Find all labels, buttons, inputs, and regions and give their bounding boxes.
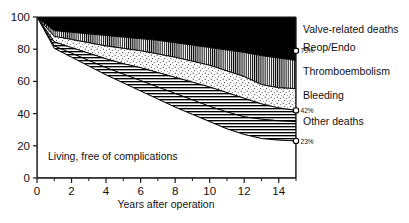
legend-label-reop-endo: Reop/Endo bbox=[303, 41, 356, 53]
x-tick-label: 8 bbox=[172, 185, 178, 197]
y-tick-label: 20 bbox=[17, 140, 30, 152]
x-tick-label: 10 bbox=[203, 185, 216, 197]
endpoint-marker-23pct bbox=[293, 138, 298, 143]
y-tick-label: 0 bbox=[24, 172, 30, 184]
y-tick-label: 40 bbox=[17, 108, 30, 120]
x-tick-label: 12 bbox=[238, 185, 251, 197]
endpoint-marker-42pct bbox=[293, 108, 298, 113]
legend-label-bleeding: Bleeding bbox=[303, 89, 344, 101]
x-tick-label: 4 bbox=[103, 185, 110, 197]
actuarial-stacked-area-chart: 02040608010002468101214 79%42%23% Living… bbox=[0, 0, 409, 223]
x-tick-label: 6 bbox=[137, 185, 143, 197]
x-tick-label: 0 bbox=[34, 185, 40, 197]
legend-label-other-deaths: Other deaths bbox=[303, 115, 364, 127]
endpoint-pct-label: 23% bbox=[301, 138, 314, 145]
endpoint-pct-label: 42% bbox=[301, 107, 314, 114]
x-axis-title: Years after operation bbox=[117, 198, 214, 210]
y-tick-label: 80 bbox=[17, 43, 30, 55]
y-tick-label: 60 bbox=[17, 75, 30, 87]
x-tick-label: 2 bbox=[68, 185, 74, 197]
endpoint-marker-79pct bbox=[293, 48, 298, 53]
legend-label-thromboembolism: Thromboembolism bbox=[303, 65, 390, 77]
y-tick-label: 100 bbox=[11, 11, 30, 23]
plot-annotation-living-free: Living, free of complications bbox=[48, 150, 178, 162]
legend-label-valve-related-deaths: Valve-related deaths bbox=[303, 23, 399, 35]
chart-canvas: 02040608010002468101214 79%42%23% Living… bbox=[0, 0, 409, 223]
x-tick-label: 14 bbox=[272, 185, 285, 197]
